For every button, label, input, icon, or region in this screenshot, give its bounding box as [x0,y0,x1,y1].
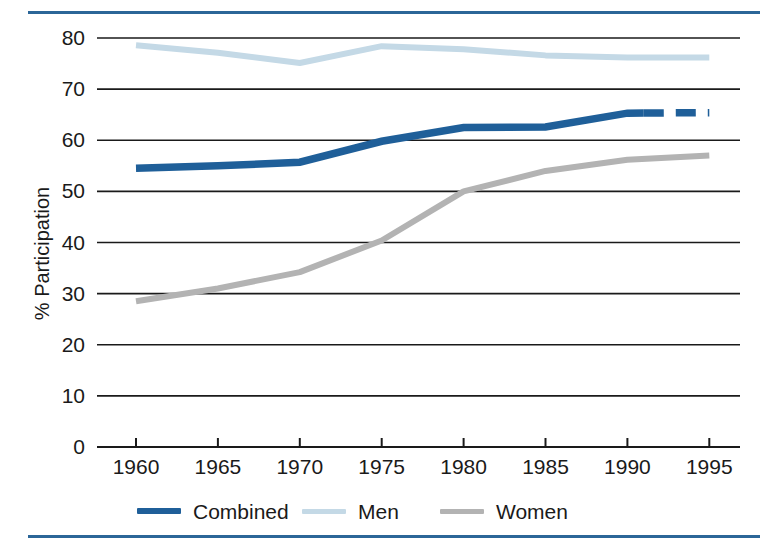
legend-item-women: Women [440,498,568,524]
legend-swatch-combined-icon [137,508,181,514]
legend-label-combined: Combined [193,501,289,522]
y-tick-label: 0 [39,436,85,457]
y-tick-label: 70 [39,78,85,99]
y-tick-label: 30 [39,283,85,304]
chart-figure: % Participation 01020304050607080 196019… [0,0,773,554]
series-line-women [136,156,709,302]
y-tick-label: 10 [39,385,85,406]
legend-label-women: Women [496,501,568,522]
y-tick-label: 80 [39,27,85,48]
y-tick-label: 20 [39,334,85,355]
y-tick-label: 50 [39,180,85,201]
x-tick-label: 1960 [96,456,176,477]
x-tick-label: 1985 [506,456,586,477]
chart-legend: Combined Men Women [0,498,773,524]
x-tick-label: 1995 [669,456,749,477]
legend-item-combined: Combined [137,498,289,524]
legend-swatch-men-icon [302,509,346,514]
y-tick-label: 40 [39,232,85,253]
x-tick-label: 1965 [178,456,258,477]
data-series-layer [136,45,709,301]
x-tick-label: 1970 [260,456,340,477]
series-line-men [136,45,709,63]
legend-swatch-women-icon [440,509,484,514]
x-axis-ticks [136,438,709,447]
legend-label-men: Men [358,501,399,522]
x-tick-label: 1980 [424,456,504,477]
gridlines [97,38,740,447]
legend-item-men: Men [302,498,399,524]
y-tick-label: 60 [39,129,85,150]
x-tick-label: 1990 [587,456,667,477]
x-tick-label: 1975 [342,456,422,477]
